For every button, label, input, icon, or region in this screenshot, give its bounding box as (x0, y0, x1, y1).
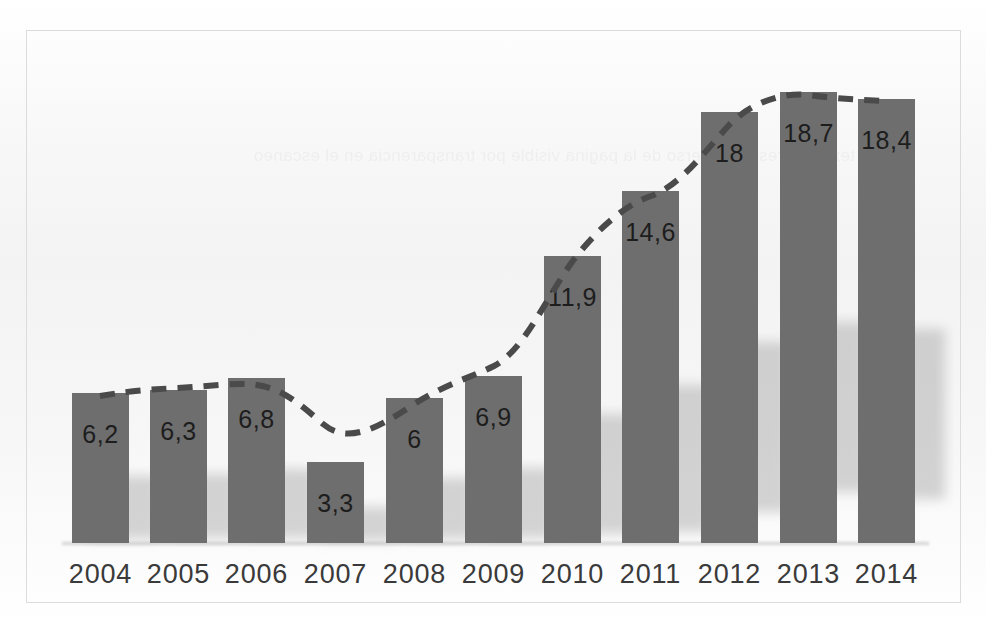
year-label-2006: 2006 (225, 559, 288, 590)
bar-2009 (465, 376, 522, 543)
chart-page: texto impreso al reverso de la pagina vi… (0, 0, 986, 627)
bar-2012 (701, 112, 758, 543)
bar-2006 (228, 378, 285, 543)
bar-2005 (150, 390, 207, 543)
bar-value-label-2007: 3,3 (317, 489, 353, 518)
year-label-2004: 2004 (69, 559, 132, 590)
bar-2004 (72, 393, 129, 543)
bar-value-label-2009: 6,9 (475, 403, 511, 432)
bar-value-label-2005: 6,3 (160, 417, 196, 446)
bar-value-label-2010: 11,9 (548, 283, 597, 312)
year-label-2014: 2014 (855, 559, 918, 590)
year-label-2012: 2012 (698, 559, 761, 590)
year-label-2011: 2011 (620, 559, 681, 590)
year-label-2013: 2013 (777, 559, 840, 590)
year-label-2009: 2009 (462, 559, 525, 590)
bar-2013 (780, 92, 837, 543)
bar-value-label-2013: 18,7 (783, 119, 834, 148)
bar-2008 (386, 398, 443, 543)
bar-2014 (858, 99, 915, 543)
year-label-2005: 2005 (147, 559, 210, 590)
bar-value-label-2008: 6 (407, 425, 421, 454)
year-label-2010: 2010 (541, 559, 604, 590)
bar-value-label-2006: 6,8 (238, 405, 274, 434)
bar-value-label-2012: 18 (715, 139, 744, 168)
plot-area: 6,26,36,83,366,911,914,61818,718,4 20042… (0, 0, 986, 627)
year-label-2008: 2008 (383, 559, 446, 590)
bar-value-label-2004: 6,2 (82, 420, 118, 449)
year-label-2007: 2007 (304, 559, 367, 590)
bar-value-label-2011: 14,6 (625, 218, 676, 247)
bar-value-label-2014: 18,4 (861, 126, 912, 155)
